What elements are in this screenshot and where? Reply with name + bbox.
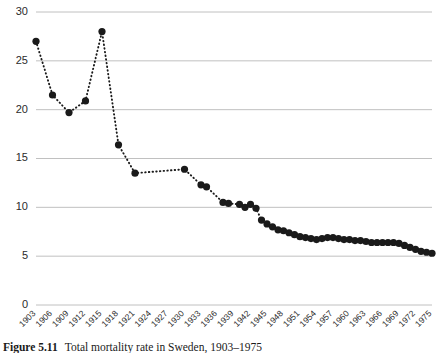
x-axis-tick-label: 1933 [182,308,203,329]
data-point-marker [428,250,435,257]
chart-plot: 0510152025301903190619091912191519181921… [0,0,438,355]
y-axis-tick-label: 5 [22,249,28,261]
figure-container: 0510152025301903190619091912191519181921… [0,0,438,355]
x-axis-tick-label: 1966 [363,308,384,329]
x-axis-tick-label: 1918 [99,308,120,329]
x-axis-tick-label: 1957 [314,308,335,329]
x-axis-tick-label: 1972 [396,308,417,329]
data-point-marker [32,38,39,45]
data-point-marker [98,28,105,35]
data-point-marker [115,141,122,148]
x-axis-tick-label: 1975 [413,308,434,329]
x-axis-tick-label: 1906 [33,308,54,329]
figure-caption: Figure 5.11Total mortality rate in Swede… [3,341,435,353]
data-point-marker [225,200,232,207]
x-axis-tick-label: 1912 [66,308,87,329]
x-axis-tick-label: 1969 [380,308,401,329]
y-axis-tick-label: 30 [16,5,28,17]
x-axis-tick-label: 1948 [264,308,285,329]
x-axis-tick-label: 1951 [281,308,302,329]
x-axis-tick-label: 1939 [215,308,236,329]
x-axis-tick-label: 1963 [347,308,368,329]
x-axis-tick-label: 1945 [248,308,269,329]
x-axis-tick-label: 1954 [297,308,318,329]
x-axis-tick-label: 1930 [165,308,186,329]
caption-text: Total mortality rate in Sweden, 1903–197… [65,341,262,353]
x-axis-tick-label: 1915 [83,308,104,329]
y-axis-tick-label: 10 [16,200,28,212]
x-axis-tick-label: 1927 [149,308,170,329]
y-axis-tick-label: 15 [16,151,28,163]
data-point-marker [49,91,56,98]
data-point-marker [65,109,72,116]
data-point-marker [252,205,259,212]
x-axis-tick-label: 1936 [198,308,219,329]
x-axis-tick-label: 1909 [50,308,71,329]
x-axis-tick-label: 1921 [116,308,137,329]
x-axis-tick-label: 1942 [231,308,252,329]
y-axis-tick-label: 20 [16,103,28,115]
caption-label: Figure 5.11 [3,341,58,353]
x-axis-tick-label: 1903 [17,308,38,329]
y-axis-tick-label: 0 [22,298,28,310]
data-point-marker [203,183,210,190]
x-axis-tick-label: 1924 [132,308,153,329]
series-connector-line [36,32,432,254]
y-axis-tick-label: 25 [16,54,28,66]
data-point-marker [82,97,89,104]
x-axis-tick-label: 1960 [330,308,351,329]
data-point-marker [131,170,138,177]
data-point-marker [181,166,188,173]
